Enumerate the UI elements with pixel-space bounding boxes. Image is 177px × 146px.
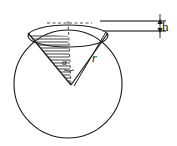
apex-angle-arc xyxy=(64,70,74,71)
cone-right-edge-inner xyxy=(74,32,106,86)
half-angle-label: α xyxy=(62,58,67,67)
figure-canvas xyxy=(0,0,177,146)
cap-height-label: h xyxy=(162,20,169,33)
geometry-figure: h r α xyxy=(0,0,177,146)
slant-radius-label: r xyxy=(92,52,97,64)
sphere-circle xyxy=(14,30,122,138)
